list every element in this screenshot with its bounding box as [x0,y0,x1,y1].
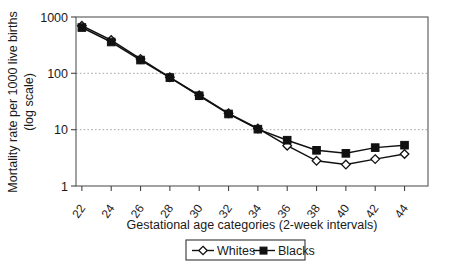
y-axis-title-line1: Mortality rate per 1000 live births [6,11,20,192]
series-whites [78,21,409,168]
filled-square-icon [260,247,267,254]
data-point-blacks-30 [195,92,203,100]
y-axis-title: Mortality rate per 1000 live births (log… [6,11,36,192]
data-point-blacks-36 [283,136,291,144]
data-point-whites-38 [312,157,321,166]
chart-figure: Mortality rate per 1000 live births (log… [0,0,450,274]
data-point-blacks-34 [254,125,262,133]
gridlines [76,73,428,129]
data-point-blacks-24 [107,38,115,46]
data-point-blacks-42 [371,144,379,152]
data-series-group [78,21,409,168]
data-point-blacks-26 [137,56,145,64]
y-tick-label-1: 1 [61,180,68,194]
x-tick-label-22: 22 [69,201,88,220]
data-point-whites-44 [400,150,409,159]
series-blacks [78,24,408,157]
legend-label-whites: Whites [217,244,255,258]
x-axis-title: Gestational age categories (2-week inter… [127,218,378,232]
y-tick-label-10: 10 [54,123,68,137]
data-point-whites-40 [342,160,351,169]
data-point-blacks-44 [401,141,409,149]
y-axis: 1000 100 10 1 [40,11,76,194]
y-axis-title-line2: (log scale) [22,73,36,131]
data-point-blacks-28 [166,74,174,82]
series-line-whites [82,26,405,165]
series-line-blacks [82,28,405,154]
x-tick-label-24: 24 [99,201,118,220]
mortality-rate-line-chart: Mortality rate per 1000 live births (log… [0,0,450,274]
chart-legend: Whites Blacks [186,240,315,260]
data-point-blacks-38 [313,147,321,155]
x-axis: 222426283032343638404244 [69,186,411,221]
data-point-whites-42 [371,155,380,164]
y-tick-label-1000: 1000 [40,11,68,25]
legend-label-blacks: Blacks [278,244,315,258]
y-tick-label-100: 100 [47,67,68,81]
data-point-blacks-32 [225,110,233,118]
data-point-blacks-40 [342,150,350,158]
x-tick-label-44: 44 [392,201,411,220]
data-point-blacks-22 [78,24,86,32]
